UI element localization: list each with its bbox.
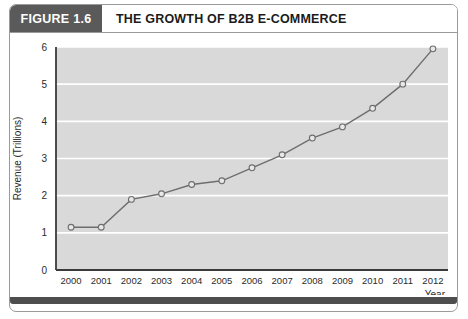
x-tick-label: 2012 <box>422 275 443 286</box>
y-axis-tick-labels: 0123456 <box>41 42 47 276</box>
x-tick-label: 2007 <box>272 275 293 286</box>
data-point-marker <box>279 152 285 158</box>
figure-container: FIGURE 1.6 THE GROWTH OF B2B E-COMMERCE … <box>0 0 468 319</box>
x-tick-label: 2002 <box>121 275 142 286</box>
x-axis-title: Year <box>425 289 446 295</box>
x-tick-label: 2005 <box>211 275 232 286</box>
x-tick-label: 2011 <box>393 275 413 286</box>
y-tick-label: 4 <box>41 116 47 127</box>
data-point-marker <box>219 178 225 184</box>
chart-area: 0123456 20002001200220032004200520062007… <box>0 33 468 295</box>
figure-bottom-bar <box>10 297 457 304</box>
data-point-marker <box>340 124 346 130</box>
y-tick-label: 5 <box>41 79 47 90</box>
x-axis-tick-labels: 2000200120022003200420052006200720082009… <box>61 275 444 286</box>
y-tick-label: 1 <box>41 227 47 238</box>
y-tick-label: 6 <box>41 42 47 53</box>
figure-title: THE GROWTH OF B2B E-COMMERCE <box>102 5 457 32</box>
x-tick-label: 2000 <box>61 275 82 286</box>
data-point-marker <box>400 81 406 87</box>
x-tick-label: 2010 <box>362 275 383 286</box>
y-tick-label: 3 <box>41 153 47 164</box>
figure-header: FIGURE 1.6 THE GROWTH OF B2B E-COMMERCE <box>10 5 457 32</box>
figure-number-tag: FIGURE 1.6 <box>10 5 102 32</box>
data-point-marker <box>309 135 315 141</box>
y-tick-label: 2 <box>41 190 47 201</box>
x-tick-label: 2006 <box>241 275 262 286</box>
y-tick-label: 0 <box>41 265 47 276</box>
figure-title-label: THE GROWTH OF B2B E-COMMERCE <box>116 12 347 26</box>
data-point-marker <box>370 105 376 111</box>
x-tick-label: 2008 <box>302 275 323 286</box>
x-tick-label: 2009 <box>332 275 353 286</box>
data-point-marker <box>249 165 255 171</box>
data-point-marker <box>98 224 104 230</box>
x-tick-label: 2004 <box>181 275 202 286</box>
figure-number-label: FIGURE 1.6 <box>20 12 91 26</box>
line-chart-svg: 0123456 20002001200220032004200520062007… <box>0 33 468 295</box>
data-point-marker <box>68 224 74 230</box>
data-point-marker <box>189 182 195 188</box>
y-axis-title: Revenue (Trillions) <box>12 117 23 201</box>
data-point-marker <box>159 191 165 197</box>
data-point-marker <box>128 196 134 202</box>
x-tick-label: 2001 <box>91 275 112 286</box>
data-point-marker <box>430 46 436 52</box>
x-tick-label: 2003 <box>151 275 172 286</box>
